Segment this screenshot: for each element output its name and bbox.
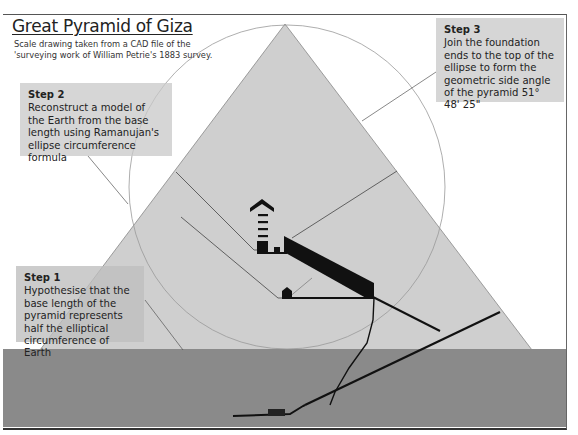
page-title: Great Pyramid of Giza bbox=[12, 16, 193, 36]
chamber-floor bbox=[257, 252, 287, 254]
step3-callout: Step 3 Join the foundation ends to the t… bbox=[436, 18, 564, 102]
relieving-bar bbox=[258, 228, 268, 230]
step2-text: Reconstruct a model of the Earth from th… bbox=[28, 102, 159, 163]
step1-callout: Step 1 Hypothesise that the base length … bbox=[16, 266, 144, 342]
step3-pointer-line bbox=[362, 72, 436, 121]
relieving-bar bbox=[258, 221, 268, 223]
subterranean-chamber bbox=[268, 409, 285, 416]
subtitle-line-2: 'surveying work of William Petrie's 1883… bbox=[14, 50, 212, 60]
step2-label: Step 2 bbox=[28, 89, 164, 101]
step2-callout: Step 2 Reconstruct a model of the Earth … bbox=[20, 83, 172, 156]
subtitle-line-1: Scale drawing taken from a CAD file of t… bbox=[14, 39, 191, 49]
step1-label: Step 1 bbox=[24, 272, 136, 284]
kings-chamber bbox=[257, 241, 268, 253]
step3-label: Step 3 bbox=[444, 24, 556, 36]
relieving-bar bbox=[258, 214, 268, 216]
page-subtitle: Scale drawing taken from a CAD file of t… bbox=[14, 39, 234, 61]
step1-text: Hypothesise that the base length of the … bbox=[24, 285, 130, 358]
step3-text: Join the foundation ends to the top of t… bbox=[444, 37, 554, 110]
relieving-bar bbox=[258, 235, 268, 237]
